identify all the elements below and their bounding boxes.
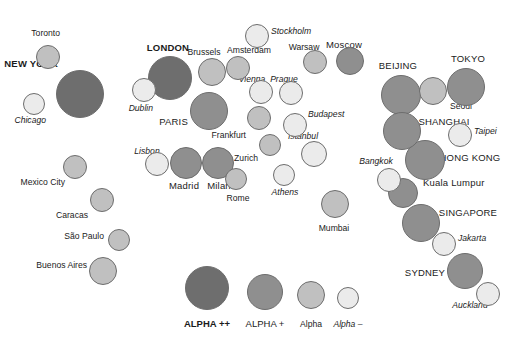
city-label-mexico-city: Mexico City — [21, 178, 65, 187]
legend-swatch-alpha — [337, 287, 359, 309]
city-label-beijing: BEIJING — [379, 61, 417, 71]
city-bubble-toronto[interactable] — [36, 45, 60, 69]
city-bubble-lisbon[interactable] — [145, 152, 169, 176]
city-label-chicago: Chicago — [14, 116, 46, 125]
city-bubble-prague[interactable] — [279, 81, 303, 105]
city-label-kuala-lumpur: Kuala Lumpur — [423, 178, 485, 188]
city-bubble-mexico-city[interactable] — [63, 155, 87, 179]
city-label-stockholm: Stockholm — [271, 27, 311, 36]
city-bubble-caracas[interactable] — [90, 188, 114, 212]
city-label-toronto: Toronto — [31, 29, 60, 38]
city-bubble-s-o-paulo[interactable] — [108, 229, 130, 251]
legend-swatch-alpha — [247, 274, 283, 310]
city-bubble-dublin[interactable] — [132, 78, 156, 102]
city-bubble-moscow[interactable] — [336, 47, 364, 75]
city-bubble-sydney[interactable] — [447, 253, 483, 289]
city-label-sydney: SYDNEY — [405, 268, 445, 278]
city-bubble-auckland[interactable] — [476, 282, 500, 306]
city-label-zurich: Zurich — [234, 154, 258, 163]
city-bubble-jakarta[interactable] — [432, 232, 456, 256]
city-bubble-warsaw[interactable] — [303, 50, 327, 74]
city-label-bangkok: Bangkok — [359, 157, 392, 166]
city-label-hong-kong: HONG KONG — [440, 153, 501, 163]
city-label-tokyo: TOKYO — [451, 54, 485, 64]
world-cities-bubble-map: TorontoNEW YORKChicagoMexico CityCaracas… — [0, 0, 518, 338]
city-bubble-athens[interactable] — [273, 164, 295, 186]
city-bubble-paris[interactable] — [190, 92, 228, 130]
legend-label-alpha: Alpha — [300, 320, 322, 329]
city-bubble-shanghai[interactable] — [383, 112, 421, 150]
city-label-s-o-paulo: São Paulo — [64, 232, 104, 241]
city-label-frankfurt: Frankfurt — [212, 131, 246, 140]
city-label-jakarta: Jakarta — [458, 234, 486, 243]
city-bubble-istanbul[interactable] — [301, 141, 327, 167]
city-bubble-madrid[interactable] — [170, 147, 202, 179]
city-bubble-frankfurt[interactable] — [247, 106, 271, 130]
legend-label-alpha: ALPHA + — [246, 319, 285, 329]
city-label-london: LONDON — [147, 43, 189, 53]
city-label-amsterdam: Amsterdam — [227, 46, 271, 55]
city-label-taipei: Taipei — [474, 127, 497, 136]
legend-swatch-alpha — [297, 281, 325, 309]
city-bubble-bangkok[interactable] — [377, 168, 401, 192]
city-bubble-stockholm[interactable] — [245, 24, 269, 48]
legend-swatch-alpha — [185, 266, 229, 310]
city-bubble-chicago[interactable] — [23, 93, 45, 115]
city-bubble-new-york[interactable] — [56, 70, 104, 118]
city-label-singapore: SINGAPORE — [439, 208, 497, 218]
legend-label-alpha: Alpha – — [333, 320, 362, 329]
city-bubble-taipei[interactable] — [448, 123, 472, 147]
city-label-brussels: Brussels — [188, 48, 221, 57]
city-bubble-zurich[interactable] — [259, 134, 281, 156]
city-bubble-rome[interactable] — [225, 168, 247, 190]
city-bubble-seoul[interactable] — [419, 77, 447, 105]
city-bubble-buenos-aires[interactable] — [89, 257, 117, 285]
city-label-madrid: Madrid — [169, 181, 199, 191]
city-bubble-amsterdam[interactable] — [226, 56, 250, 80]
city-label-buenos-aires: Buenos Aires — [36, 261, 87, 270]
legend-label-alpha: ALPHA ++ — [184, 319, 230, 329]
city-label-dublin: Dublin — [129, 104, 153, 113]
city-bubble-tokyo[interactable] — [447, 68, 485, 106]
city-bubble-vienna[interactable] — [249, 80, 273, 104]
city-label-mumbai: Mumbai — [319, 224, 350, 233]
city-bubble-beijing[interactable] — [381, 75, 421, 115]
city-label-athens: Athens — [272, 188, 299, 197]
city-label-caracas: Caracas — [56, 211, 88, 220]
city-label-budapest: Budapest — [308, 110, 344, 119]
city-label-rome: Rome — [227, 194, 250, 203]
city-bubble-mumbai[interactable] — [321, 190, 349, 218]
city-label-paris: PARIS — [159, 117, 188, 127]
city-bubble-brussels[interactable] — [198, 58, 226, 86]
city-bubble-budapest[interactable] — [283, 113, 307, 137]
